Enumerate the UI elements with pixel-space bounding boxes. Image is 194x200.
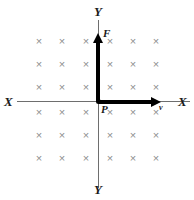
- force-vector-label: F: [103, 27, 110, 39]
- field-into-page-mark: ×: [34, 153, 45, 164]
- force-vector-shaft: [96, 42, 100, 102]
- field-into-page-mark: ×: [34, 107, 45, 118]
- field-into-page-mark: ×: [57, 59, 68, 70]
- field-into-page-mark: ×: [151, 36, 162, 47]
- field-into-page-mark: ×: [105, 59, 116, 70]
- y-axis-bottom-label: Y: [94, 182, 102, 198]
- field-into-page-mark: ×: [105, 130, 116, 141]
- field-into-page-mark: ×: [128, 130, 139, 141]
- field-into-page-mark: ×: [81, 82, 92, 93]
- field-into-page-mark: ×: [81, 107, 92, 118]
- field-into-page-mark: ×: [34, 36, 45, 47]
- field-into-page-mark: ×: [57, 130, 68, 141]
- field-into-page-mark: ×: [128, 107, 139, 118]
- field-into-page-mark: ×: [81, 36, 92, 47]
- y-axis-top-label: Y: [94, 4, 102, 20]
- field-into-page-mark: ×: [34, 82, 45, 93]
- field-into-page-mark: ×: [151, 153, 162, 164]
- field-into-page-mark: ×: [34, 130, 45, 141]
- field-into-page-mark: ×: [128, 82, 139, 93]
- field-into-page-mark: ×: [128, 153, 139, 164]
- field-into-page-mark: ×: [128, 59, 139, 70]
- field-into-page-mark: ×: [151, 59, 162, 70]
- field-into-page-mark: ×: [128, 36, 139, 47]
- field-into-page-mark: ×: [81, 59, 92, 70]
- field-into-page-mark: ×: [105, 82, 116, 93]
- field-into-page-mark: ×: [57, 36, 68, 47]
- field-into-page-mark: ×: [57, 153, 68, 164]
- physics-diagram-magnetic-field: ×××××××××××××××××××××××××××××××××××× Y Y…: [0, 0, 194, 200]
- field-into-page-mark: ×: [105, 153, 116, 164]
- velocity-vector-label: v: [159, 103, 163, 112]
- force-vector-arrowhead: [93, 33, 103, 43]
- field-into-page-mark: ×: [57, 107, 68, 118]
- field-into-page-mark: ×: [57, 82, 68, 93]
- x-axis-right-label: X: [178, 94, 187, 110]
- field-into-page-mark: ×: [81, 153, 92, 164]
- field-into-page-mark: ×: [81, 130, 92, 141]
- field-into-page-mark: ×: [151, 82, 162, 93]
- field-into-page-mark: ×: [151, 130, 162, 141]
- field-into-page-mark: ×: [34, 59, 45, 70]
- x-axis-left-label: X: [4, 94, 13, 110]
- point-p-label: P: [101, 103, 108, 115]
